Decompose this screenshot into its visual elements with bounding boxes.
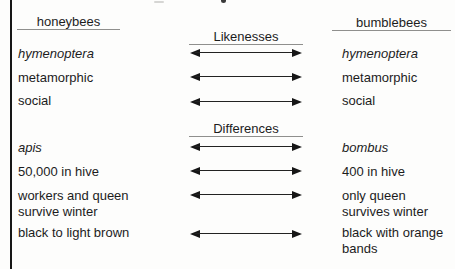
right-item: black with orange bands	[342, 225, 450, 257]
left-item: 50,000 in hive	[18, 164, 158, 180]
cropped-title-artifact-faint	[154, 1, 164, 3]
right-item: 400 in hive	[342, 164, 450, 180]
differences-section-label: Differences	[189, 122, 303, 137]
left-column-header: honeybees	[17, 14, 120, 30]
double-arrow-icon	[190, 96, 302, 108]
double-arrow-icon	[190, 228, 302, 240]
left-item: black to light brown	[18, 225, 158, 241]
left-item: social	[18, 93, 158, 109]
frame-left-border	[10, 0, 12, 269]
right-item: bombus	[342, 140, 450, 156]
bee-comparison-diagram: honeybees bumblebees Likenesses hymenopt…	[0, 0, 455, 269]
left-header-label: honeybees	[37, 14, 101, 29]
right-item: social	[342, 93, 450, 109]
differences-label-text: Differences	[213, 121, 279, 136]
right-item: only queen survives winter	[342, 188, 450, 220]
left-item: hymenoptera	[18, 46, 158, 62]
left-item: workers and queen survive winter	[18, 188, 158, 220]
left-item: metamorphic	[18, 70, 158, 86]
double-arrow-icon	[190, 47, 302, 59]
cropped-title-artifact	[221, 0, 226, 3]
double-arrow-icon	[190, 165, 302, 177]
double-arrow-icon	[190, 189, 302, 201]
right-header-label: bumblebees	[356, 15, 427, 30]
likenesses-section-label: Likenesses	[189, 30, 303, 45]
left-item: apis	[18, 140, 158, 156]
right-item: hymenoptera	[342, 46, 450, 62]
right-item: metamorphic	[342, 70, 450, 86]
double-arrow-icon	[190, 71, 302, 83]
right-column-header: bumblebees	[332, 15, 451, 31]
likenesses-label-text: Likenesses	[213, 29, 278, 44]
double-arrow-icon	[190, 141, 302, 153]
